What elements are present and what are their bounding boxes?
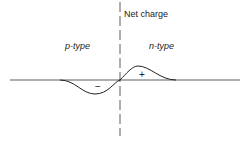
positive-charge-sign: + [139, 69, 145, 80]
negative-charge-sign: − [95, 81, 101, 92]
diagram-graphics [0, 0, 247, 142]
p-type-label: p-type [65, 41, 90, 51]
net-charge-label: Net charge [124, 9, 168, 19]
n-type-label: n-type [149, 41, 174, 51]
net-charge-diagram: Net charge p-type n-type − + [0, 0, 247, 142]
